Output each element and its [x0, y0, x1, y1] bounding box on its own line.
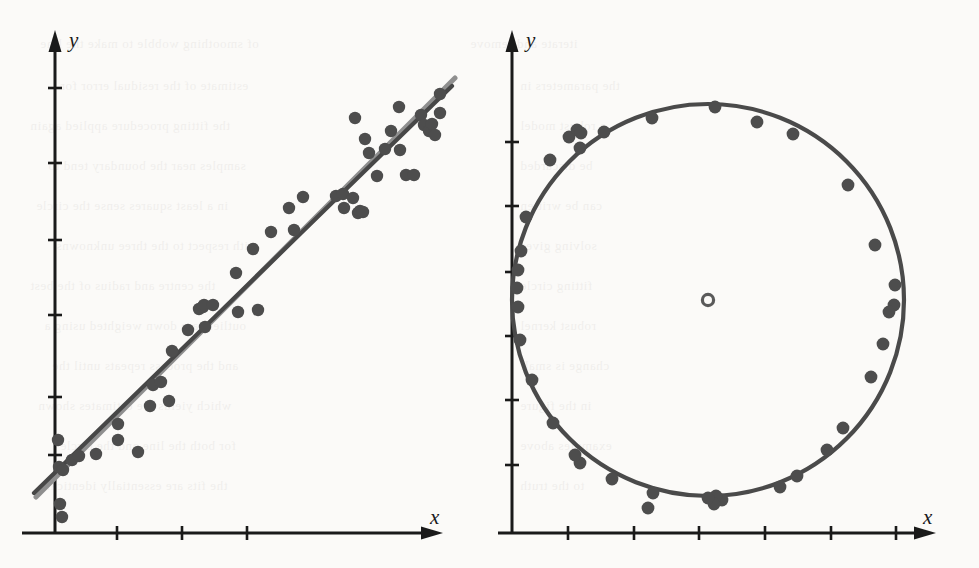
x-axis-label-left: x: [429, 505, 440, 529]
fitted-circle: [512, 104, 904, 496]
x-axis-left: [22, 527, 443, 540]
y-axis-label-left: y: [67, 28, 79, 52]
linear-regression-plot: y x: [0, 0, 490, 568]
linear-regression-panel: y x: [0, 0, 490, 568]
y-axis-left: [49, 30, 62, 533]
circle-fit-plot: y x: [490, 0, 979, 568]
x-axis-right: [498, 527, 936, 540]
figure-root: of smoothing wobble to make the line ite…: [0, 0, 979, 568]
x-axis-label-right: x: [922, 505, 933, 529]
circle-center-marker: [702, 294, 713, 305]
circle-fit-panel: y x: [490, 0, 979, 568]
scatter-points-left: [52, 88, 446, 523]
y-axis-label-right: y: [524, 28, 536, 52]
